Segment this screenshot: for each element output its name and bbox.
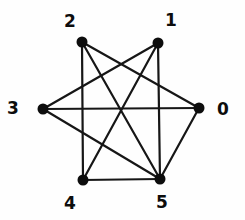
graph-edge-4-5 xyxy=(83,179,160,180)
node-label-0: 0 xyxy=(217,99,229,119)
graph-node-1 xyxy=(153,38,164,49)
node-label-5: 5 xyxy=(156,192,168,212)
graph-edge-2-4 xyxy=(82,42,83,180)
graph-edge-0-5 xyxy=(160,108,199,179)
node-label-2: 2 xyxy=(64,11,76,31)
graph-edge-3-5 xyxy=(43,109,160,179)
graph-node-5 xyxy=(155,174,166,185)
node-label-4: 4 xyxy=(64,193,76,213)
graph-node-4 xyxy=(78,175,89,186)
graph-canvas: 012345 xyxy=(0,0,245,220)
graph-node-2 xyxy=(77,37,88,48)
graph-node-3 xyxy=(38,104,49,115)
graph-node-0 xyxy=(194,103,205,114)
graph-edge-1-5 xyxy=(158,43,160,179)
graph-figure: 012345 xyxy=(0,0,245,220)
node-label-3: 3 xyxy=(7,98,19,118)
node-label-1: 1 xyxy=(165,10,177,30)
edges-layer xyxy=(43,42,199,180)
